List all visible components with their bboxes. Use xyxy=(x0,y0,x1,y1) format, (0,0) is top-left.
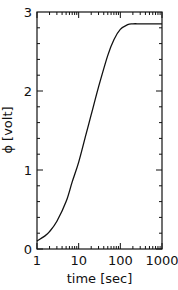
data-line xyxy=(37,24,162,241)
y-tick-label: 2 xyxy=(24,84,32,99)
x-tick-label: 1 xyxy=(33,253,41,268)
x-tick-label: 1000 xyxy=(145,253,178,268)
y-axis-label: ϕ [volt] xyxy=(0,106,15,153)
y-tick-label: 3 xyxy=(24,5,32,20)
chart: 0123 1101001000 time [sec] ϕ [volt] xyxy=(0,0,178,290)
axis-ticks xyxy=(37,12,162,249)
x-tick-labels: 1101001000 xyxy=(33,253,178,268)
x-tick-label: 100 xyxy=(108,253,133,268)
x-tick-label: 10 xyxy=(70,253,87,268)
plot-frame xyxy=(37,12,162,249)
y-tick-label: 0 xyxy=(24,242,32,257)
x-axis-label: time [sec] xyxy=(67,271,133,286)
y-tick-label: 1 xyxy=(24,163,32,178)
y-tick-labels: 0123 xyxy=(24,5,32,257)
